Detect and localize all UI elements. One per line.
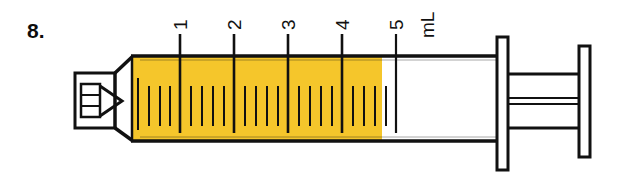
- scale-label-3: 3: [278, 19, 299, 30]
- luer-hub: [81, 84, 100, 117]
- plunger-flange-bar: [497, 37, 508, 170]
- thumb-rest: [579, 46, 590, 157]
- luer-tip: [75, 56, 133, 141]
- scale-label-1: 1: [170, 19, 191, 30]
- syringe-diagram: 1 2 3 4 5 mL: [0, 0, 617, 177]
- figure-page: 8.: [0, 0, 617, 177]
- unit-label-ml: mL: [417, 12, 438, 38]
- luer-shoulder-top: [115, 56, 133, 73]
- scale-label-5: 5: [386, 19, 407, 30]
- scale-label-2: 2: [224, 19, 245, 30]
- thumb-rest-bar: [579, 46, 590, 157]
- barrel: [131, 56, 501, 141]
- plunger-flange: [497, 37, 508, 170]
- luer-shoulder-bottom: [115, 128, 133, 141]
- scale-labels: 1 2 3 4 5 mL: [170, 12, 438, 38]
- plunger-rod: [508, 74, 583, 128]
- scale-label-4: 4: [332, 19, 353, 30]
